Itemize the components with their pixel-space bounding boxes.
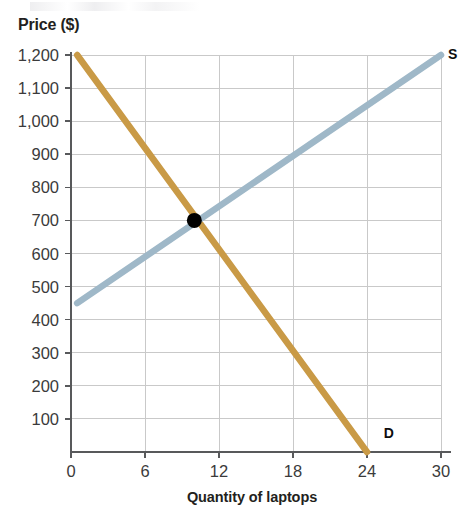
- demand-curve-label: D: [384, 425, 394, 441]
- x-axis-title-text: Quantity of laptops: [187, 489, 317, 505]
- supply-demand-chart: Price ($) 1002003004005006007008009001,0…: [0, 0, 476, 517]
- curve-supply: [77, 55, 441, 303]
- supply-curve-label: S: [448, 46, 457, 62]
- plot-area: [0, 0, 476, 517]
- equilibrium-point: [187, 213, 202, 228]
- x-axis-title: Quantity of laptops: [0, 489, 476, 505]
